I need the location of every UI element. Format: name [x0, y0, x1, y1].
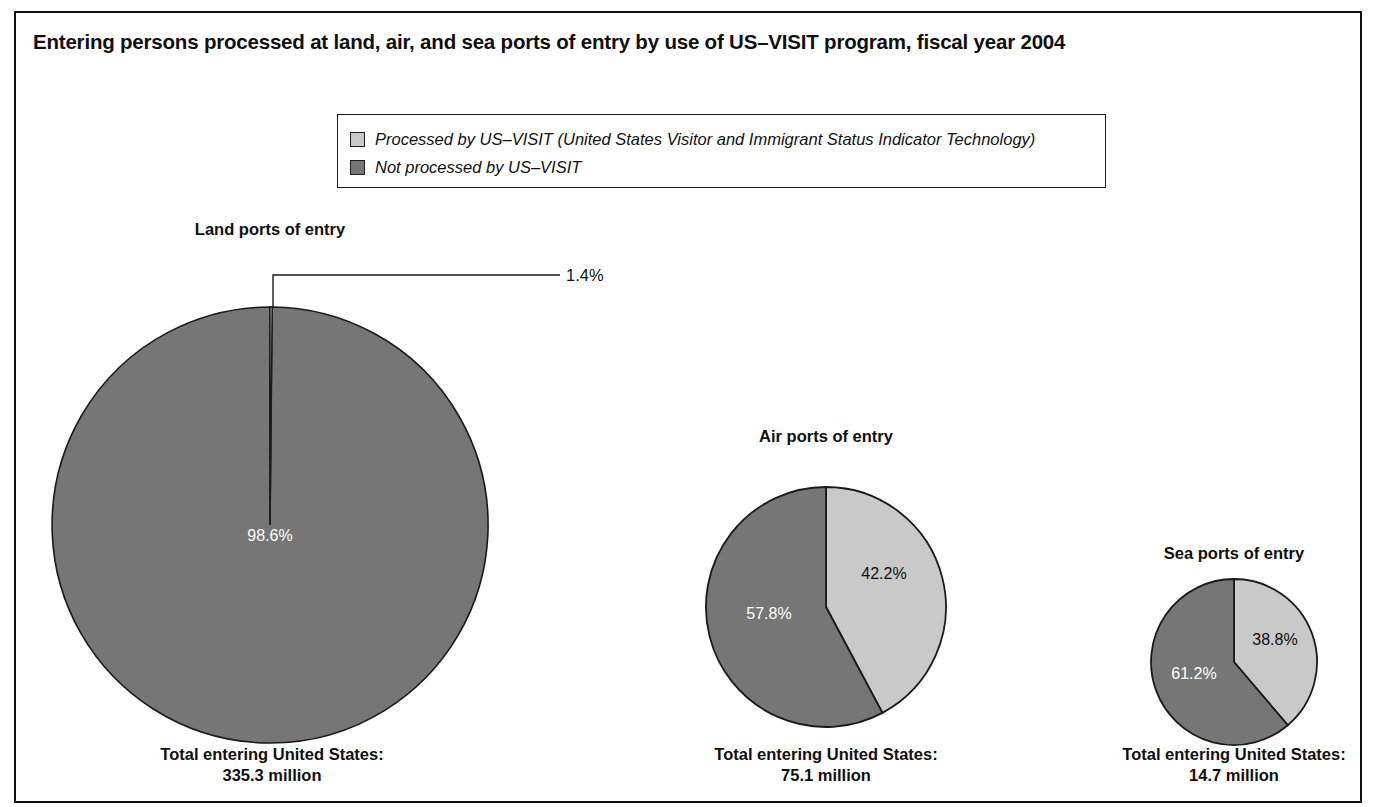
pie-label-sea-processed: 38.8% — [1252, 631, 1297, 648]
pie-label-land-not-processed: 98.6% — [247, 527, 292, 544]
legend-swatch-processed-icon — [350, 132, 365, 147]
pie-label-air-processed: 42.2% — [861, 565, 906, 582]
pie-label-air-not-processed: 57.8% — [746, 605, 791, 622]
panel-total-land-line2: 335.3 million — [160, 765, 383, 786]
panel-total-air: Total entering United States: 75.1 milli… — [714, 744, 937, 786]
pie-chart-land: 98.6% — [0, 250, 640, 750]
legend-item-processed: Processed by US–VISIT (United States Vis… — [350, 126, 1105, 152]
chart-figure: Entering persons processed at land, air,… — [0, 0, 1378, 807]
legend-label-processed: Processed by US–VISIT (United States Vis… — [375, 130, 1035, 149]
panel-total-air-line1: Total entering United States: — [714, 744, 937, 765]
pie-label-land-processed: 1.4% — [566, 266, 604, 285]
panel-total-land-line1: Total entering United States: — [160, 744, 383, 765]
legend-item-not-processed: Not processed by US–VISIT — [350, 154, 1105, 180]
legend-swatch-not-processed-icon — [350, 160, 365, 175]
panel-total-sea-line1: Total entering United States: — [1122, 744, 1345, 765]
panel-total-air-line2: 75.1 million — [714, 765, 937, 786]
legend: Processed by US–VISIT (United States Vis… — [337, 114, 1106, 188]
panel-title-land: Land ports of entry — [195, 220, 345, 239]
page-title: Entering persons processed at land, air,… — [33, 30, 1065, 54]
pie-label-sea-not-processed: 61.2% — [1171, 665, 1216, 682]
legend-label-not-processed: Not processed by US–VISIT — [375, 158, 581, 177]
panel-total-sea: Total entering United States: 14.7 milli… — [1122, 744, 1345, 786]
pie-chart-sea: 38.8% 61.2% — [1104, 554, 1366, 774]
callout-leader-line-land — [273, 275, 560, 308]
panel-total-sea-line2: 14.7 million — [1122, 765, 1345, 786]
panel-total-land: Total entering United States: 335.3 mill… — [160, 744, 383, 786]
pie-chart-air: 42.2% 57.8% — [646, 427, 1006, 727]
